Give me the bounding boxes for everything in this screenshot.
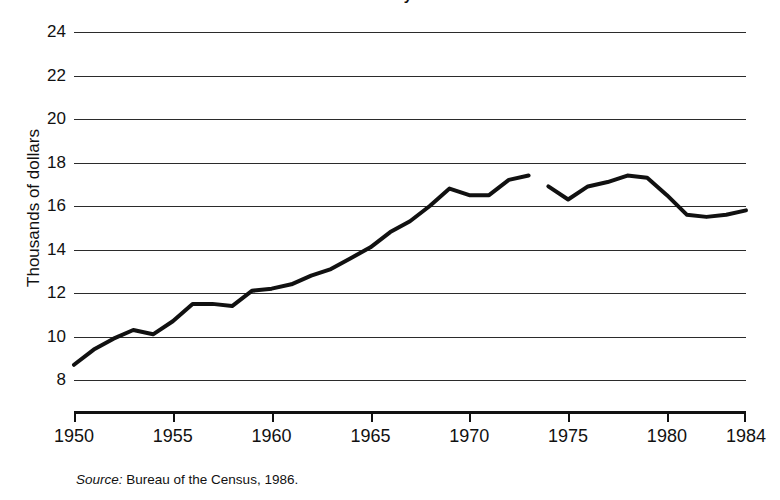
y-tick-label: 10 <box>47 327 66 347</box>
y-tick-label: 18 <box>47 153 66 173</box>
y-tick-label: 8 <box>57 370 66 390</box>
plot-area: 81012141618202224 <box>74 32 746 380</box>
x-axis-tick <box>744 411 746 422</box>
y-tick-label: 14 <box>47 240 66 260</box>
gridline <box>74 380 746 381</box>
y-axis-title: Thousands of dollars <box>24 58 44 358</box>
x-axis <box>74 411 746 423</box>
data-series-line <box>74 32 746 380</box>
x-axis-tick <box>173 411 175 422</box>
source-value: Bureau of the Census, 1986. <box>126 472 298 487</box>
y-tick-label: 16 <box>47 196 66 216</box>
x-tick-label: 1975 <box>548 426 588 447</box>
x-axis-tick <box>568 411 570 422</box>
series-segment-1 <box>74 176 529 365</box>
chart-title-cropped: median family income <box>0 0 780 8</box>
x-tick-label: 1965 <box>350 426 390 447</box>
y-tick-label: 22 <box>47 66 66 86</box>
x-tick-label: 1955 <box>153 426 193 447</box>
series-segment-2 <box>548 176 746 217</box>
x-axis-tick <box>74 411 76 422</box>
y-tick-label: 20 <box>47 109 66 129</box>
x-axis-tick <box>667 411 669 422</box>
y-tick-label: 12 <box>47 283 66 303</box>
x-tick-label: 1980 <box>647 426 687 447</box>
figure-chart: median family income Thousands of dollar… <box>0 0 780 500</box>
x-tick-label: 1950 <box>54 426 94 447</box>
x-axis-line <box>74 411 746 414</box>
x-tick-label: 1984 <box>726 426 766 447</box>
y-tick-label: 24 <box>47 22 66 42</box>
x-tick-label: 1960 <box>252 426 292 447</box>
x-axis-tick <box>272 411 274 422</box>
source-label: Source: <box>76 472 123 487</box>
x-axis-tick <box>371 411 373 422</box>
x-tick-label: 1970 <box>449 426 489 447</box>
x-axis-tick <box>469 411 471 422</box>
source-note: Source: Bureau of the Census, 1986. <box>76 472 298 487</box>
